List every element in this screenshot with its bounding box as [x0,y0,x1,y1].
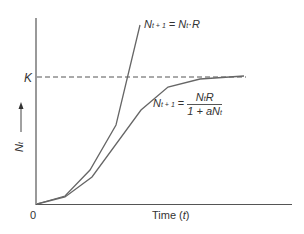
population-growth-chart: K 0 Time (t) Nt Nt + 1 = Nt·R Nt + 1 = N… [0,0,304,234]
exponential-equation: Nt + 1 = Nt·R [144,19,200,30]
y-axis-arrow-icon [19,102,24,109]
origin-label: 0 [30,210,36,221]
chart-plot-area [0,0,304,234]
k-label: K [24,72,32,84]
logistic-equation: Nt + 1 = NtR 1 + aNt [153,92,222,117]
x-axis-label: Time (t) [152,210,190,221]
logistic-fraction: NtR 1 + aNt [187,92,222,117]
exponential-curve [37,25,140,204]
y-axis-label: Nt [14,142,25,152]
